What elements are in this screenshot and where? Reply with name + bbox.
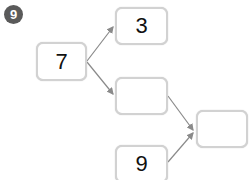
arrow-to-top <box>87 27 113 61</box>
arrow-middle-to-result <box>168 96 193 130</box>
bottom-given-box: 9 <box>115 145 168 180</box>
top-branch-box: 3 <box>115 7 168 45</box>
result-answer-box[interactable] <box>196 110 248 148</box>
middle-answer-box[interactable] <box>115 77 168 115</box>
arrow-bottom-to-result <box>168 133 193 162</box>
start-box: 7 <box>36 42 87 81</box>
arrow-to-middle <box>87 62 113 94</box>
